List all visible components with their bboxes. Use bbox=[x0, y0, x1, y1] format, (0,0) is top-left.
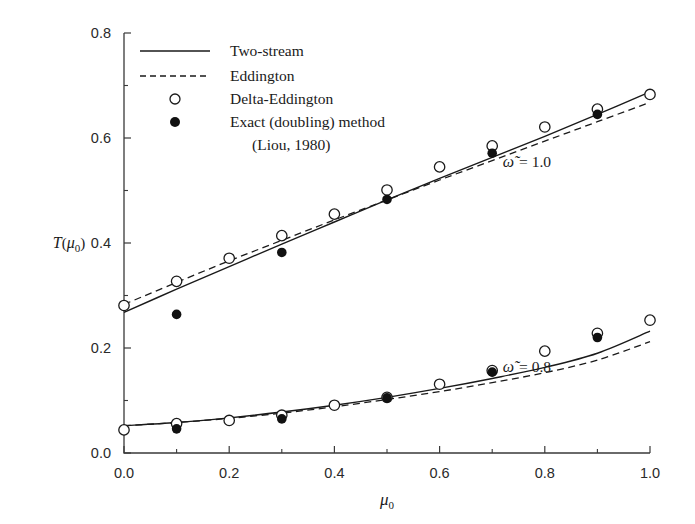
y-tick-label: 0.4 bbox=[91, 235, 111, 251]
data-point-open bbox=[171, 276, 181, 286]
curve-annotation: ω̃= 0.8 bbox=[503, 358, 552, 375]
legend-filled-circle-icon bbox=[170, 117, 180, 127]
data-point-filled bbox=[277, 414, 287, 424]
x-tick-label: 0.8 bbox=[535, 465, 555, 481]
data-point-filled bbox=[172, 424, 182, 434]
data-point-open bbox=[329, 400, 339, 410]
data-point-filled bbox=[593, 110, 603, 120]
data-point-open bbox=[434, 379, 444, 389]
data-point-open bbox=[119, 300, 129, 310]
y-tick-label: 0.6 bbox=[91, 130, 111, 146]
data-point-filled bbox=[382, 393, 392, 403]
x-tick-label: 0.6 bbox=[430, 465, 450, 481]
data-point-filled bbox=[172, 310, 182, 320]
curve-annotation: ω̃= 1.0 bbox=[503, 153, 552, 170]
data-point-filled bbox=[593, 333, 603, 343]
y-tick-label: 0.8 bbox=[91, 25, 111, 41]
x-tick-label: 0.2 bbox=[219, 465, 239, 481]
data-point-filled bbox=[277, 248, 287, 258]
legend-label: Eddington bbox=[230, 67, 295, 84]
data-point-open bbox=[645, 315, 655, 325]
transmission-chart: 0.00.20.40.60.81.00.00.20.40.60.8 Two-st… bbox=[0, 0, 695, 524]
data-point-open bbox=[119, 425, 129, 435]
data-point-open bbox=[382, 185, 392, 195]
data-point-open bbox=[224, 415, 234, 425]
data-point-open bbox=[434, 162, 444, 172]
legend-label: (Liou, 1980) bbox=[252, 136, 330, 154]
data-point-open bbox=[329, 209, 339, 219]
data-point-filled bbox=[487, 148, 497, 158]
figure-container: 0.00.20.40.60.81.00.00.20.40.60.8 Two-st… bbox=[0, 0, 695, 524]
data-point-open bbox=[540, 346, 550, 356]
data-point-open bbox=[277, 230, 287, 240]
legend-label: Two-stream bbox=[230, 42, 304, 59]
x-tick-label: 1.0 bbox=[640, 465, 660, 481]
x-tick-label: 0.4 bbox=[324, 465, 344, 481]
legend-label: Delta-Eddington bbox=[230, 90, 334, 107]
legend-open-circle-icon bbox=[170, 94, 180, 104]
x-tick-label: 0.0 bbox=[114, 465, 134, 481]
data-point-filled bbox=[487, 367, 497, 377]
legend-label: Exact (doubling) method bbox=[230, 113, 385, 131]
data-point-filled bbox=[382, 195, 392, 205]
data-point-open bbox=[645, 89, 655, 99]
data-point-open bbox=[540, 122, 550, 132]
y-tick-label: 0.2 bbox=[91, 340, 111, 356]
y-tick-label: 0.0 bbox=[91, 445, 111, 461]
data-point-open bbox=[224, 253, 234, 263]
